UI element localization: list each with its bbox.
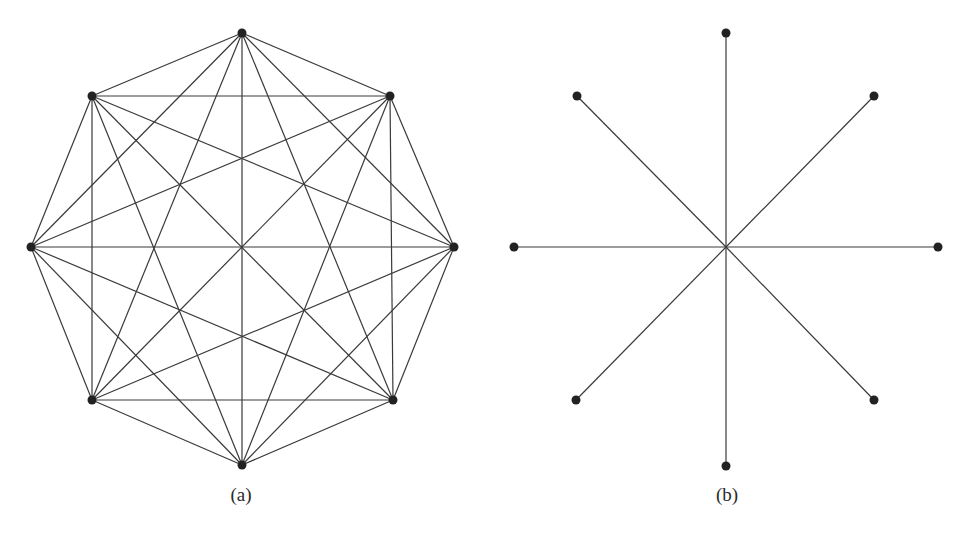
graph-node bbox=[450, 243, 459, 252]
graph-node bbox=[870, 396, 879, 405]
graph-node bbox=[510, 243, 519, 252]
graph-edge bbox=[92, 33, 242, 400]
graph-node bbox=[386, 92, 395, 101]
graph-node bbox=[238, 29, 247, 38]
graph-edge bbox=[92, 247, 454, 400]
star-spoke bbox=[576, 247, 726, 400]
graph-edge bbox=[31, 247, 393, 400]
graph-node bbox=[238, 461, 247, 470]
graph-node bbox=[722, 462, 731, 471]
graph-node bbox=[88, 92, 97, 101]
graph-node bbox=[572, 396, 581, 405]
graph-node bbox=[870, 92, 879, 101]
star-spoke bbox=[577, 96, 726, 247]
graph-node bbox=[88, 396, 97, 405]
star-spoke bbox=[726, 247, 874, 400]
graph-edge bbox=[31, 96, 92, 247]
star-graph-b bbox=[510, 29, 943, 471]
graph-node bbox=[389, 396, 398, 405]
graph-edge bbox=[31, 247, 92, 400]
complete-graph-a bbox=[27, 29, 459, 470]
graph-edge bbox=[242, 96, 390, 465]
figure-label-a: (a) bbox=[230, 484, 251, 506]
star-spoke bbox=[726, 96, 874, 247]
graph-edge bbox=[390, 96, 393, 400]
diagram-canvas bbox=[0, 0, 959, 545]
graph-node bbox=[722, 29, 731, 38]
graph-node bbox=[934, 243, 943, 252]
figure-label-b: (b) bbox=[716, 484, 738, 506]
graph-node bbox=[27, 243, 36, 252]
graph-edge bbox=[393, 247, 454, 400]
graph-node bbox=[573, 92, 582, 101]
graph-edge bbox=[31, 96, 390, 247]
